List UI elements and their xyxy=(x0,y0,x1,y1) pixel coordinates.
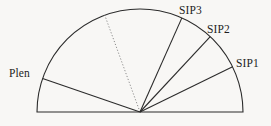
semicircle-diagram: Plen SIP1 SIP2 SIP3 xyxy=(0,0,271,126)
diagram-canvas xyxy=(0,0,271,126)
label-sip1: SIP1 xyxy=(236,57,259,69)
label-plen: Plen xyxy=(9,67,30,79)
label-sip3: SIP3 xyxy=(179,4,202,16)
radial-line-sip3 xyxy=(140,18,182,112)
radial-line-plen xyxy=(43,78,140,112)
label-sip2: SIP2 xyxy=(207,23,230,35)
radial-line-sip1 xyxy=(140,67,233,112)
radial-line-sip2 xyxy=(140,37,210,112)
radial-line-reference-dotted xyxy=(105,15,140,112)
